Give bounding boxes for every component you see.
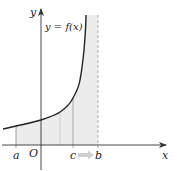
c-to-b-arrow bbox=[78, 151, 94, 160]
improper-integral-diagram: y y = f(x) x a O c b bbox=[0, 0, 178, 171]
curve-label: y = f(x) bbox=[44, 21, 83, 32]
tick-label-c: c bbox=[70, 149, 76, 162]
origin-label: O bbox=[29, 147, 38, 160]
y-axis-label: y bbox=[29, 6, 37, 19]
tick-label-b: b bbox=[95, 149, 102, 162]
x-axis-label: x bbox=[162, 149, 169, 162]
tick-label-a: a bbox=[13, 149, 20, 162]
